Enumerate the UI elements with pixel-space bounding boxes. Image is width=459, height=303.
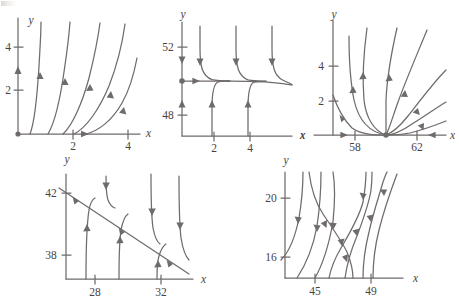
curve-arrow-below-2 xyxy=(245,100,252,107)
panel-e-x-label: x xyxy=(412,272,419,284)
panel-d-y-label: y xyxy=(63,153,70,166)
curve-arrow-down-2 xyxy=(148,209,155,216)
curve-arrow-4 xyxy=(107,91,114,98)
curve-arrow-left-3 xyxy=(359,72,366,79)
curve-arrow-e9 xyxy=(380,189,387,196)
panel-e: y x 20 16 45 49 xyxy=(253,152,459,303)
panel-b-y-tick-label-52: 52 xyxy=(162,41,174,53)
x-axis-arrow-right xyxy=(340,132,348,138)
panel-c-y-tick-label-2: 2 xyxy=(318,95,324,107)
panel-a-y-label: y xyxy=(27,14,34,27)
curve-arrow-1 xyxy=(36,72,43,79)
panel-d-plot: y x 42 38 28 32 xyxy=(33,152,223,303)
curve-arrow-right-3 xyxy=(418,123,424,130)
panel-e-plot: y x 20 16 45 49 xyxy=(253,152,459,303)
panel-e-y-tick-label-20: 20 xyxy=(265,192,277,204)
panel-a-x-tick-label-4: 4 xyxy=(125,140,131,152)
panel-a-y-tick-label-2: 2 xyxy=(5,84,11,96)
curve-arrow-e5-b xyxy=(342,254,348,262)
equilibrium-point xyxy=(15,131,20,136)
equilibrium-point xyxy=(179,78,185,84)
curve-arrow-left-2 xyxy=(349,86,356,93)
panel-d-y-tick-label-42: 42 xyxy=(45,187,57,199)
panel-b-y-tick-label-48: 48 xyxy=(162,109,174,121)
panel-c: y x x 4 2 58 62 xyxy=(300,4,459,156)
panel-c-x-label-right: x xyxy=(449,129,456,141)
panel-c-y-tick-label-4: 4 xyxy=(318,60,324,72)
curve-arrow-above-3 xyxy=(269,59,276,66)
curve-arrow-below-1 xyxy=(209,100,216,107)
curve-mid xyxy=(386,28,397,135)
curve-right-1 xyxy=(386,30,427,135)
curve-above-1 xyxy=(200,26,230,81)
panel-a-y-tick-label-4: 4 xyxy=(5,41,11,53)
panel-e-x-tick-label-45: 45 xyxy=(309,285,321,297)
curve-above-2 xyxy=(236,26,266,81)
equilibrium-arrow-right xyxy=(192,78,200,84)
panel-e-y-tick-label-16: 16 xyxy=(265,251,277,263)
panel-a-x-label: x xyxy=(145,127,152,139)
panel-b-y-label: y xyxy=(179,8,186,21)
curve-e8 xyxy=(363,172,387,278)
x-axis-arrow xyxy=(81,131,89,137)
curve-arrow-e1 xyxy=(295,216,302,224)
y-axis-arrow-down xyxy=(179,57,186,64)
curve-up-1 xyxy=(86,198,95,279)
line-arrow-1 xyxy=(73,197,79,205)
curve-e7 xyxy=(345,172,372,278)
curve-left-2 xyxy=(349,36,386,135)
curve-below-1 xyxy=(212,81,230,136)
x-axis-arrow-left xyxy=(428,132,436,138)
panel-a-x-tick-label-2: 2 xyxy=(70,140,76,152)
curve-arrow-up-1 xyxy=(83,224,90,231)
y-axis-arrow-up xyxy=(179,100,186,107)
curve-arrow-down-1 xyxy=(102,183,109,190)
curve-arrow-above-1 xyxy=(197,59,204,66)
panel-b: y x 52 48 2 4 xyxy=(152,4,307,154)
curve-down-1 xyxy=(106,176,115,208)
panel-d-y-tick-label-38: 38 xyxy=(45,249,57,261)
y-axis-arrow xyxy=(15,66,22,74)
curve-arrow-up-3 xyxy=(154,260,161,267)
panel-a-plot: y x 4 2 2 4 xyxy=(0,4,150,154)
curve-e1 xyxy=(281,172,303,260)
panel-d-x-tick-label-32: 32 xyxy=(155,286,167,298)
curve-arrow-e5-a xyxy=(321,220,327,228)
curve-arrow-e2 xyxy=(313,224,320,232)
equilibrium-point xyxy=(383,132,389,138)
curve-left-3 xyxy=(363,28,386,135)
curve-arrow-5 xyxy=(119,107,126,114)
curve-arrow-mid xyxy=(385,74,392,81)
panel-d: y x 42 38 28 32 xyxy=(33,152,223,303)
curve-arrow-up-2 xyxy=(116,236,123,243)
curve-down-3 xyxy=(179,176,189,260)
figure-container: y x 4 2 2 4 xyxy=(0,0,459,303)
curve-2 xyxy=(48,22,70,134)
curve-up-2 xyxy=(119,214,128,279)
panel-c-plot: y x x 4 2 58 62 xyxy=(300,4,459,156)
curve-4 xyxy=(74,24,125,134)
curve-arrow-above-2 xyxy=(233,59,240,66)
panel-d-x-label: x xyxy=(200,273,207,285)
panel-c-y-label: y xyxy=(330,8,337,21)
curve-above-3 xyxy=(272,26,292,85)
panel-c-x-label-left: x xyxy=(299,129,306,141)
panel-a: y x 4 2 2 4 xyxy=(0,4,150,154)
curve-arrow-down-3 xyxy=(176,223,183,230)
panel-e-y-label: y xyxy=(282,154,289,167)
panel-b-plot: y x 52 48 2 4 xyxy=(152,4,307,154)
curve-below-2 xyxy=(248,81,266,136)
curve-right-2 xyxy=(386,70,446,135)
curve-arrow-e6-b xyxy=(360,193,367,200)
panel-e-x-tick-label-49: 49 xyxy=(365,285,377,297)
panel-d-x-tick-label-28: 28 xyxy=(89,286,101,298)
